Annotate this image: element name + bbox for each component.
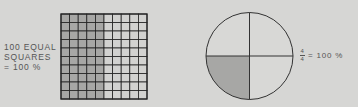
- grid-cell: [113, 48, 122, 57]
- grid-cell: [138, 31, 147, 40]
- grid-cell: [121, 74, 130, 83]
- grid-cell-shaded: [87, 31, 96, 40]
- grid-cell: [130, 23, 139, 32]
- grid-cell-shaded: [87, 91, 96, 100]
- grid-cell-shaded: [78, 14, 87, 23]
- grid-cell-shaded: [78, 40, 87, 49]
- grid-cell-shaded: [95, 40, 104, 49]
- fraction-numerator: 4: [300, 48, 304, 54]
- grid-cell-shaded: [70, 48, 79, 57]
- grid-cell: [121, 65, 130, 74]
- grid-cell-shaded: [87, 48, 96, 57]
- grid-cell-shaded: [95, 74, 104, 83]
- grid-cell-shaded: [87, 82, 96, 91]
- grid-cell: [130, 74, 139, 83]
- grid-cell-shaded: [61, 65, 70, 74]
- grid-cell-shaded: [70, 65, 79, 74]
- grid-cell-shaded: [78, 23, 87, 32]
- grid-cell-shaded: [61, 82, 70, 91]
- grid-cell-shaded: [95, 14, 104, 23]
- quartered-circle: [206, 13, 293, 100]
- grid-cell-shaded: [95, 23, 104, 32]
- grid-cell: [121, 14, 130, 23]
- grid-cell-shaded: [78, 91, 87, 100]
- grid-cell: [130, 82, 139, 91]
- grid-cell: [130, 48, 139, 57]
- grid-cell: [113, 74, 122, 83]
- grid-cell-shaded: [95, 65, 104, 74]
- grid-cell: [138, 91, 147, 100]
- grid-cell-shaded: [95, 48, 104, 57]
- grid-cell: [113, 57, 122, 66]
- grid-cell-shaded: [95, 31, 104, 40]
- grid-cell-shaded: [61, 23, 70, 32]
- grid-cell-shaded: [70, 40, 79, 49]
- hundred-square-grid: [61, 14, 147, 99]
- grid-cell-shaded: [70, 82, 79, 91]
- grid-cell: [113, 31, 122, 40]
- grid-cell: [130, 91, 139, 100]
- grid-cell: [113, 65, 122, 74]
- grid-cell: [138, 65, 147, 74]
- grid-cell-shaded: [61, 31, 70, 40]
- grid-cell: [104, 48, 113, 57]
- circle-sector: [206, 13, 250, 57]
- grid-cell-shaded: [78, 74, 87, 83]
- grid-cell-shaded: [78, 31, 87, 40]
- grid-cell: [104, 74, 113, 83]
- grid-cell-shaded: [95, 91, 104, 100]
- grid-cell: [113, 91, 122, 100]
- grid-cell: [130, 40, 139, 49]
- grid-cell-shaded: [78, 82, 87, 91]
- grid-cell-shaded: [95, 57, 104, 66]
- grid-cell-shaded: [87, 40, 96, 49]
- circle-sector: [250, 13, 294, 57]
- circle-sector: [250, 56, 294, 100]
- grid-cell-shaded: [70, 31, 79, 40]
- grid-cell: [104, 82, 113, 91]
- grid-cell-shaded: [61, 14, 70, 23]
- grid-cell: [113, 23, 122, 32]
- grid-cell: [104, 65, 113, 74]
- grid-cell-shaded: [78, 48, 87, 57]
- grid-cell-shaded: [87, 14, 96, 23]
- grid-cell: [138, 48, 147, 57]
- grid-cell: [121, 82, 130, 91]
- grid-cell-shaded: [70, 57, 79, 66]
- grid-cell: [130, 14, 139, 23]
- fraction-denominator: 4: [300, 56, 304, 62]
- grid-cell: [121, 23, 130, 32]
- grid-cell-shaded: [61, 48, 70, 57]
- grid-cell: [138, 14, 147, 23]
- fraction: 4 4: [300, 48, 305, 62]
- grid-cell-shaded: [87, 74, 96, 83]
- grid-cell-shaded: [70, 91, 79, 100]
- grid-cell: [104, 40, 113, 49]
- grid-cell: [113, 40, 122, 49]
- grid-cell: [130, 57, 139, 66]
- grid-cell: [113, 82, 122, 91]
- grid-cell: [104, 91, 113, 100]
- grid-cell: [130, 65, 139, 74]
- grid-cell: [121, 91, 130, 100]
- grid-cell-shaded: [87, 23, 96, 32]
- grid-cell-shaded: [70, 74, 79, 83]
- grid-cell: [138, 40, 147, 49]
- grid-cell: [104, 23, 113, 32]
- grid-cell: [138, 74, 147, 83]
- grid-cell: [138, 57, 147, 66]
- grid-cell: [113, 14, 122, 23]
- grid-cell-shaded: [78, 65, 87, 74]
- grid-cell-shaded: [87, 57, 96, 66]
- grid-cell: [104, 14, 113, 23]
- grid-cell: [121, 57, 130, 66]
- grid-cell-shaded: [61, 74, 70, 83]
- grid-cell: [130, 31, 139, 40]
- grid-cell-shaded: [95, 82, 104, 91]
- grid-cell-shaded: [61, 57, 70, 66]
- grid-cell: [104, 31, 113, 40]
- grid-cell: [121, 48, 130, 57]
- grid-cell: [121, 40, 130, 49]
- grid-cell-shaded: [61, 91, 70, 100]
- grid-cell-shaded: [70, 14, 79, 23]
